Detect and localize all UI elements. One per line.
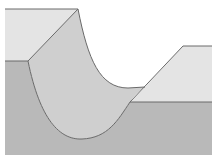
- valley-cross-section-diagram: [0, 0, 215, 158]
- upper-right-layer: [130, 46, 212, 102]
